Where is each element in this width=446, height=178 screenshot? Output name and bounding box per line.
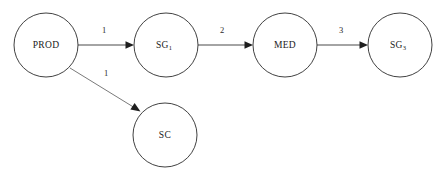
edge-prod-to-sg1: 1 — [78, 25, 134, 49]
node-label-prod: PROD — [33, 40, 60, 50]
diagram-canvas: 1 2 3 1 PROD SG1 — [0, 0, 446, 178]
node-label-sc: SC — [159, 130, 171, 140]
node-prod[interactable]: PROD — [14, 13, 78, 77]
edge-weight-med-sg3: 3 — [339, 25, 343, 35]
edge-sg1-to-med: 2 — [198, 25, 253, 49]
graph-diagram: 1 2 3 1 PROD SG1 — [0, 0, 446, 178]
arrow-head-sg1-med — [245, 41, 254, 49]
node-label-sg1-subscript: 1 — [169, 44, 172, 51]
arrow-head-prod-sg1 — [126, 41, 135, 49]
edge-prod-to-sc: 1 — [70, 68, 141, 111]
edge-weight-prod-sc: 1 — [104, 68, 108, 78]
node-label-sg1-base: SG — [156, 40, 169, 50]
edge-med-to-sg3: 3 — [317, 25, 368, 49]
node-med[interactable]: MED — [253, 13, 317, 77]
node-label-med: MED — [274, 40, 296, 50]
node-sc[interactable]: SC — [133, 103, 197, 167]
arrow-head-prod-sc — [130, 103, 140, 111]
node-sg1[interactable]: SG1 — [134, 13, 198, 77]
node-sg3[interactable]: SG3 — [368, 13, 432, 77]
edge-weight-prod-sg1: 1 — [102, 25, 106, 35]
edge-line-prod-sc — [70, 68, 135, 108]
node-label-sg3-base: SG — [390, 40, 403, 50]
arrow-head-med-sg3 — [360, 41, 369, 49]
node-label-sg3-subscript: 3 — [403, 44, 406, 51]
edge-weight-sg1-med: 2 — [220, 25, 224, 35]
